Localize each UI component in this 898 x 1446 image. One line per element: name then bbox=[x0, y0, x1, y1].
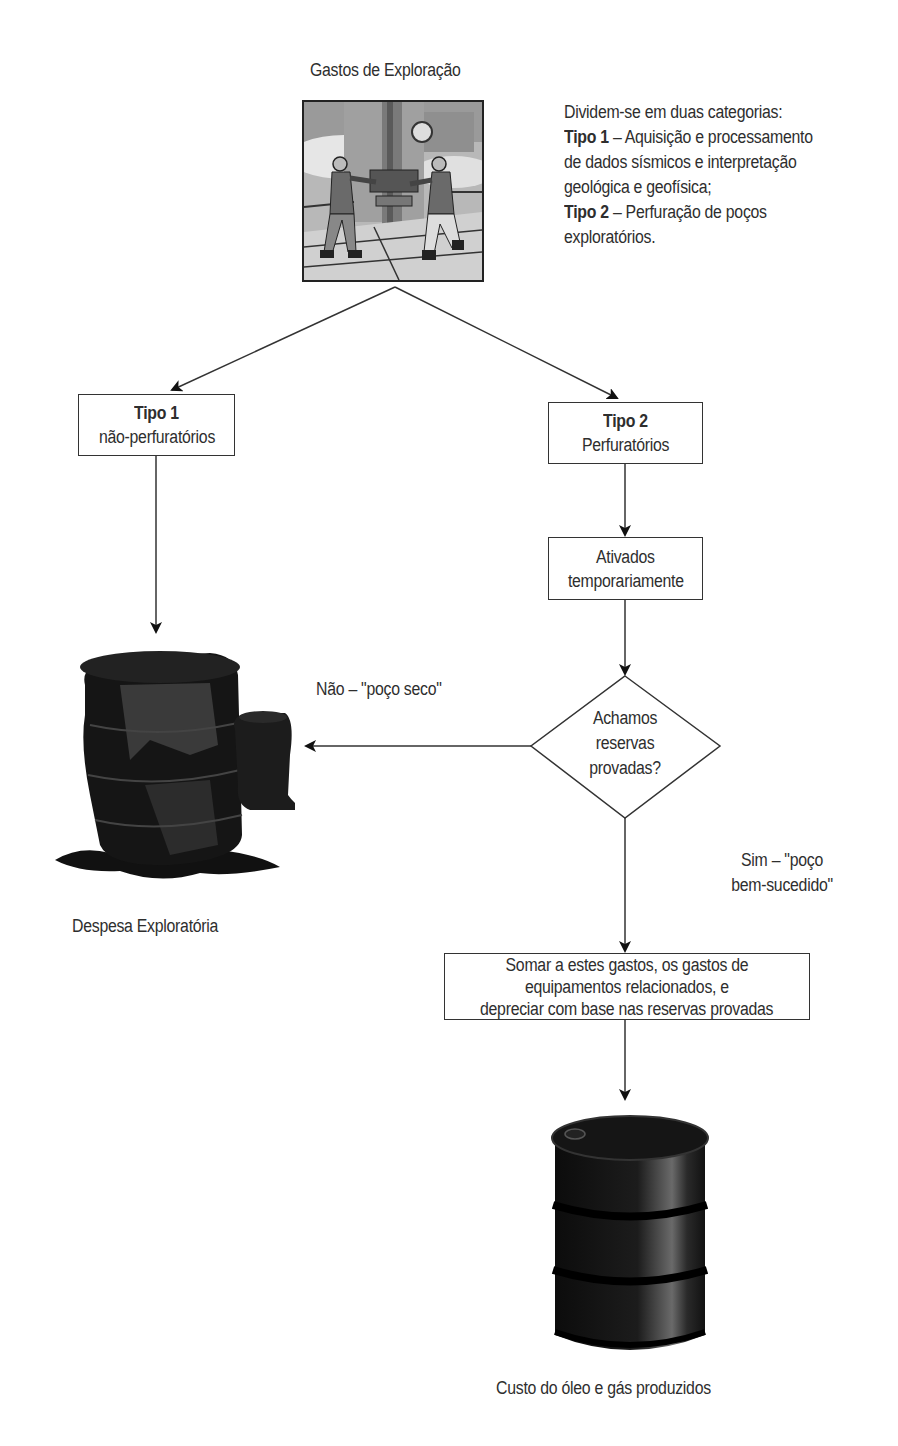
edge-label-yes: Sim – "poço bem-sucedido" bbox=[712, 848, 852, 898]
tipo2-text: – Perfuração de poços bbox=[609, 202, 767, 222]
description-intro: Dividem-se em duas categorias: bbox=[564, 100, 813, 125]
node-ativados: Ativados temporariamente bbox=[548, 537, 703, 600]
node-decision: Achamos reservas provadas? bbox=[560, 706, 690, 781]
yes-line2: bem-sucedido" bbox=[720, 873, 843, 898]
description-tipo1-line3: geológica e geofísica; bbox=[564, 175, 813, 200]
oil-rig-workers-illustration bbox=[302, 100, 484, 282]
category-description: Dividem-se em duas categorias: Tipo 1 – … bbox=[564, 100, 847, 250]
oil-barrel-icon bbox=[545, 1110, 715, 1360]
description-tipo2-line2: exploratórios. bbox=[564, 225, 813, 250]
decision-line1: Achamos bbox=[568, 706, 682, 731]
tipo2-bold-label: Tipo 2 bbox=[564, 202, 609, 222]
node-tipo1-title: Tipo 1 bbox=[134, 401, 179, 425]
node-tipo1: Tipo 1 não-perfuratórios bbox=[78, 394, 235, 456]
yes-line1: Sim – "poço bbox=[720, 848, 843, 873]
decision-line3: provadas? bbox=[568, 756, 682, 781]
top-title: Gastos de Exploração bbox=[310, 60, 461, 81]
node-tipo1-subtitle: não-perfuratórios bbox=[98, 425, 214, 449]
node-ativados-line2: temporariamente bbox=[568, 569, 684, 593]
node-somar: Somar a estes gastos, os gastos de equip… bbox=[444, 953, 810, 1020]
somar-line2: equipamentos relacionados, e bbox=[525, 976, 729, 998]
description-tipo1-line2: de dados sísmicos e interpretação bbox=[564, 150, 813, 175]
edge-label-no: Não – "poço seco" bbox=[316, 679, 442, 700]
description-tipo1: Tipo 1 – Aquisição e processamento bbox=[564, 125, 813, 150]
tipo1-bold-label: Tipo 1 bbox=[564, 127, 609, 147]
caption-custo-oleo-gas: Custo do óleo e gás produzidos bbox=[496, 1378, 711, 1399]
node-tipo2-subtitle: Perfuratórios bbox=[582, 433, 669, 457]
description-tipo2: Tipo 2 – Perfuração de poços bbox=[564, 200, 813, 225]
decision-line2: reservas bbox=[568, 731, 682, 756]
somar-line1: Somar a estes gastos, os gastos de bbox=[506, 954, 749, 976]
node-tipo2: Tipo 2 Perfuratórios bbox=[548, 402, 703, 464]
somar-line3: depreciar com base nas reservas provadas bbox=[480, 998, 773, 1020]
node-ativados-line1: Ativados bbox=[596, 545, 655, 569]
tipo1-text: – Aquisição e processamento bbox=[609, 127, 813, 147]
spilled-oil-barrel-icon bbox=[50, 645, 295, 895]
caption-despesa-exploratoria: Despesa Exploratória bbox=[72, 916, 218, 937]
node-tipo2-title: Tipo 2 bbox=[603, 409, 648, 433]
